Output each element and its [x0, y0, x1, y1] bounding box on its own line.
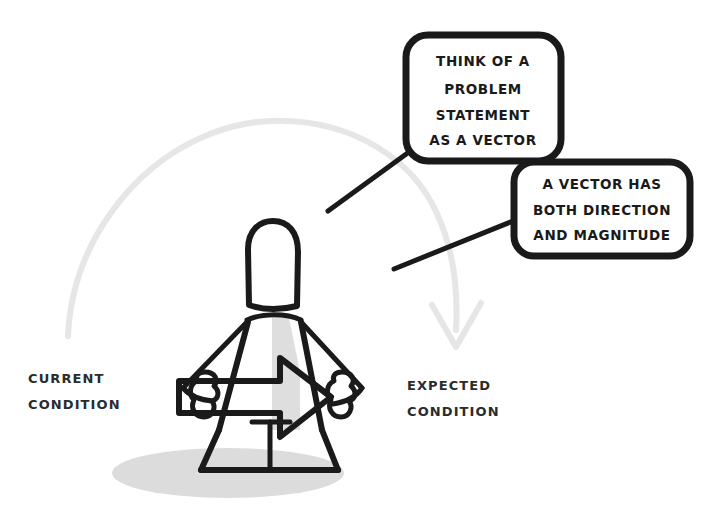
- vector-concept-illustration: THINK OF A PROBLEM STATEMENT AS A VECTOR…: [0, 0, 709, 511]
- caption-right-line-1: EXPECTED: [407, 378, 491, 393]
- caption-right-line-2: CONDITION: [407, 404, 500, 419]
- bubble-2-line-3: AND MAGNITUDE: [533, 227, 670, 243]
- bubble-2-line-2: BOTH DIRECTION: [533, 202, 671, 218]
- bubble-vector-definition[interactable]: A VECTOR HAS BOTH DIRECTION AND MAGNITUD…: [514, 162, 690, 256]
- stick-figure-person: [179, 221, 362, 470]
- bubble-1-line-2: PROBLEM: [444, 81, 522, 97]
- bubble-problem-statement[interactable]: THINK OF A PROBLEM STATEMENT AS A VECTOR: [406, 35, 561, 161]
- bubble-1-tail: [328, 152, 409, 211]
- head-outline: [248, 221, 298, 309]
- caption-expected-condition: EXPECTED CONDITION: [407, 378, 500, 419]
- illustration-canvas: THINK OF A PROBLEM STATEMENT AS A VECTOR…: [0, 0, 709, 511]
- bubble-1-line-1: THINK OF A: [436, 53, 530, 69]
- caption-left-line-2: CONDITION: [28, 397, 121, 412]
- bubble-1-line-4: AS A VECTOR: [429, 132, 536, 148]
- caption-current-condition: CURRENT CONDITION: [28, 371, 121, 412]
- left-arm-forearm: [183, 388, 213, 401]
- bubble-2-line-1: A VECTOR HAS: [542, 176, 661, 192]
- caption-left-line-1: CURRENT: [28, 371, 104, 386]
- bubble-1-line-3: STATEMENT: [436, 107, 530, 123]
